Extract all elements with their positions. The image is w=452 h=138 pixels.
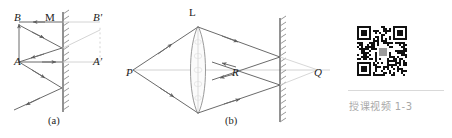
label-lens-l: L bbox=[189, 7, 196, 18]
virtual-image-construction-b bbox=[280, 57, 318, 85]
qr-caption: 授课视频 1-3 bbox=[349, 98, 449, 113]
optics-figure: B M A B' A' (a) L P R Q (b) 授课视频 1-3 bbox=[0, 0, 452, 138]
label-mirror-point-m: M bbox=[45, 12, 55, 23]
mirror-hatching-b bbox=[280, 16, 286, 122]
ray-lens-bottom-to-mirror-arrow bbox=[224, 99, 240, 104]
label-image-top-a: B' bbox=[93, 12, 102, 23]
ray-mirror-to-a-arrow bbox=[31, 54, 44, 58]
ray-a-down-arrow bbox=[32, 70, 45, 78]
caption-panel-b: (b) bbox=[225, 116, 237, 127]
mirror-hatching-a bbox=[63, 10, 69, 110]
virtual-ray-diag bbox=[63, 30, 100, 48]
qr-code-icon[interactable] bbox=[357, 26, 407, 76]
virtual-converge-upper bbox=[280, 57, 318, 70]
label-object-top-a: B bbox=[14, 12, 21, 23]
ray-p-to-lens-top-arrow bbox=[158, 44, 172, 54]
panel-a-group bbox=[14, 10, 100, 112]
caption-panel-a: (a) bbox=[48, 116, 60, 127]
qr-divider bbox=[348, 90, 444, 91]
ray-lens-top-to-mirror-arrow bbox=[222, 36, 238, 42]
ray-mirror-lower-reflect bbox=[212, 62, 280, 85]
virtual-converge-lower bbox=[280, 70, 318, 85]
label-image-bottom-a: A' bbox=[93, 56, 102, 67]
label-image-q: Q bbox=[314, 67, 322, 78]
label-object-bottom-a: A bbox=[14, 56, 21, 67]
qr-code-block[interactable]: 授课视频 1-3 bbox=[340, 14, 448, 126]
ray-m-reflect-arrow bbox=[32, 32, 44, 38]
ray-lens-top-to-mirror bbox=[198, 27, 280, 57]
label-focus-r: R bbox=[232, 67, 239, 78]
ray-mirror-upper-reflect bbox=[212, 57, 280, 80]
ray-p-to-lens-bottom-arrow bbox=[160, 88, 174, 97]
ray-reflect-outgoing-arrow bbox=[26, 98, 40, 105]
panel-b-group bbox=[126, 16, 330, 122]
label-source-p: P bbox=[126, 67, 133, 78]
